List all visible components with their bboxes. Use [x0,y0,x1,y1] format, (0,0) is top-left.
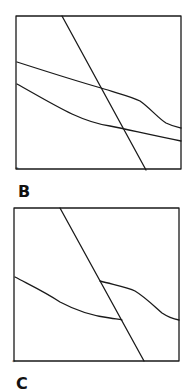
panel-b-label: B [18,184,30,200]
panel-c: * [12,208,179,366]
panel-b-lower-curve [17,84,181,141]
panel-c-origin-mark: * [12,358,16,366]
panel-c-frame [14,208,179,361]
panel-c-steep-line [60,208,144,361]
panel-b: * [15,16,181,173]
panel-b-steep-line [62,16,146,170]
panel-c-lower-curve [15,277,122,320]
panel-b-frame [16,16,181,169]
panel-b-upper-curve [17,62,181,128]
panel-c-label: C [16,376,28,389]
panel-c-upper-curve [100,281,179,320]
panel-b-origin-mark: * [15,165,19,173]
